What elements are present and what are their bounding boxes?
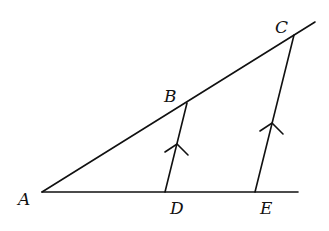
line-ABC — [42, 22, 315, 192]
label-B: B — [163, 86, 177, 106]
label-C: C — [275, 17, 288, 37]
geometry-diagram: A B C D E — [0, 0, 329, 231]
segment-BD — [165, 103, 187, 192]
label-D: D — [169, 198, 184, 218]
label-A: A — [16, 189, 30, 209]
label-E: E — [259, 198, 273, 218]
segment-CE — [255, 35, 294, 192]
